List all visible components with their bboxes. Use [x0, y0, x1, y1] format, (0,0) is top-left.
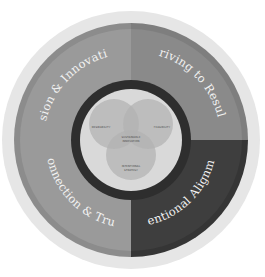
venn-center-label: SUSTAINABLE [122, 136, 141, 139]
venn-label-bottom-line2: STRATEGY [124, 169, 138, 172]
leadership-wheel-diagram: Vision & Innovation Driving to Results I… [0, 0, 265, 277]
venn-center-label-line2: INNOVATION [122, 140, 139, 143]
venn-label-right: FEASIBILITY [154, 126, 171, 129]
venn-label-left: DESIRABILITY [92, 126, 111, 129]
venn-label-bottom: INTENTIONAL [122, 165, 141, 168]
